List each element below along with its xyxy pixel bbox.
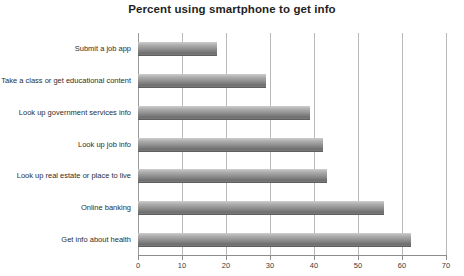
- bar: [138, 201, 384, 215]
- bar: [138, 233, 411, 247]
- x-tick-30: [270, 256, 271, 260]
- x-tick-20: [226, 256, 227, 260]
- category-label: Take a class or get educational content: [0, 76, 131, 85]
- x-tick-label-50: 50: [346, 261, 370, 270]
- category-label: Submit a job app: [0, 44, 131, 53]
- x-tick-0: [138, 256, 139, 260]
- y-axis-category-labels: Submit a job appTake a class or get educ…: [0, 33, 134, 256]
- x-tick-label-20: 20: [214, 261, 238, 270]
- bar-series: [138, 33, 446, 256]
- bar: [138, 42, 217, 56]
- plot-area: [138, 33, 446, 256]
- x-tick-60: [402, 256, 403, 260]
- bar: [138, 138, 323, 152]
- x-tick-label-10: 10: [170, 261, 194, 270]
- category-label: Look up job info: [0, 140, 131, 149]
- x-tick-70: [446, 256, 447, 260]
- bar: [138, 169, 327, 183]
- category-label: Look up government services info: [0, 108, 131, 117]
- x-tick-label-30: 30: [258, 261, 282, 270]
- x-tick-10: [182, 256, 183, 260]
- category-label: Look up real estate or place to live: [0, 171, 131, 180]
- bar: [138, 74, 266, 88]
- bar: [138, 106, 310, 120]
- x-tick-label-60: 60: [390, 261, 414, 270]
- gridline-70: [446, 33, 447, 256]
- category-label: Get info about health: [0, 235, 131, 244]
- category-label: Online banking: [0, 203, 131, 212]
- bar-chart: Percent using smartphone to get info Sub…: [0, 0, 464, 276]
- x-tick-label-0: 0: [126, 261, 150, 270]
- x-tick-40: [314, 256, 315, 260]
- chart-title: Percent using smartphone to get info: [0, 3, 464, 15]
- x-tick-label-70: 70: [434, 261, 458, 270]
- x-axis-line: [138, 255, 447, 256]
- x-tick-50: [358, 256, 359, 260]
- x-tick-label-40: 40: [302, 261, 326, 270]
